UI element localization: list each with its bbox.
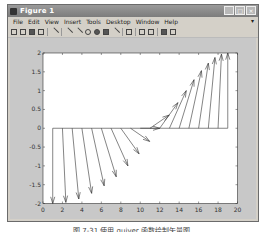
x-tick-label: 12 xyxy=(156,206,164,213)
y-tick-label: 1 xyxy=(37,87,41,94)
y-tick-label: 2 xyxy=(37,49,41,56)
x-tick-label: 6 xyxy=(99,206,103,213)
figure-window: Figure 1 _ □ × File Edit View Insert Too… xyxy=(7,4,259,222)
x-tick-label: 18 xyxy=(214,206,222,213)
y-tick-label: 1.5 xyxy=(31,68,41,75)
x-tick-label: 16 xyxy=(195,206,203,213)
x-tick-label: 14 xyxy=(175,206,183,213)
x-tick-label: 8 xyxy=(119,206,123,213)
figure-caption: 图 7-31 使用 quiver 函数绘制矢量图 xyxy=(0,225,263,232)
x-tick-label: 2 xyxy=(61,206,65,213)
x-tick-label: 4 xyxy=(80,206,84,213)
y-tick-label: -1.5 xyxy=(29,181,41,188)
y-tick-label: -1 xyxy=(35,162,41,169)
x-tick-label: 10 xyxy=(136,206,144,213)
y-tick-label: 0.5 xyxy=(31,105,41,112)
y-tick-label: 0 xyxy=(37,124,41,131)
x-tick-label: 0 xyxy=(41,206,45,213)
y-tick-label: -2 xyxy=(35,200,41,207)
quiver-plot[interactable]: 02468101214161820-2-1.5-1-0.500.511.52 xyxy=(1,1,263,232)
figure-canvas: 02468101214161820-2-1.5-1-0.500.511.52 xyxy=(10,38,256,219)
x-tick-label: 20 xyxy=(234,206,242,213)
y-tick-label: -0.5 xyxy=(29,143,41,150)
